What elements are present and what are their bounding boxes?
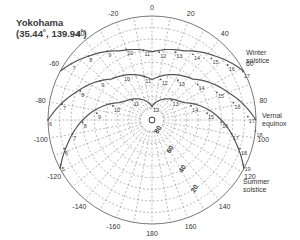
hour-label: 13 <box>176 53 182 59</box>
sun-path-curve <box>48 75 256 120</box>
hour-label: 19 <box>244 166 250 172</box>
hour-label: 18 <box>241 150 247 156</box>
hour-label: 17 <box>233 135 239 141</box>
azimuth-line <box>85 129 144 200</box>
hour-label: 9 <box>101 82 104 88</box>
hour-label: 6 <box>65 150 68 156</box>
azimuth-label: 40 <box>221 30 229 37</box>
altitude-label: 40 <box>177 163 187 173</box>
hour-label: 17 <box>244 73 250 79</box>
hour-label: 7 <box>73 65 76 71</box>
azimuth-line <box>158 30 204 110</box>
hour-label: 15 <box>218 93 224 99</box>
hour-label: 13 <box>179 81 185 87</box>
winter-solstice-label-line1: Winter <box>246 49 267 56</box>
azimuth-line <box>161 53 232 112</box>
azimuth-label: -60 <box>49 60 59 67</box>
azimuth-line <box>116 131 148 218</box>
hour-label: 10 <box>114 107 120 113</box>
hour-label: 12 <box>160 53 166 59</box>
summer-solstice-label-line2: solstice <box>243 186 266 193</box>
hour-label: 15 <box>212 59 218 65</box>
hour-label: 11 <box>145 78 151 84</box>
azimuth-line <box>62 126 142 172</box>
zenith-marker <box>149 117 155 123</box>
azimuth-label: -160 <box>106 223 120 230</box>
summer-solstice-label-line1: Summer <box>243 178 270 185</box>
sun-path-curves: 7891011121314151617678910111213141516171… <box>47 49 262 172</box>
altitude-azimuth-grid <box>48 16 256 224</box>
azimuth-label: -40 <box>74 30 84 37</box>
azimuth-label: 80 <box>259 97 267 104</box>
sun-path-diagram: 7891011121314151617678910111213141516171… <box>0 0 300 240</box>
hour-label: 12 <box>162 80 168 86</box>
hour-label: 8 <box>84 123 87 129</box>
hour-label: 14 <box>194 55 200 61</box>
azimuth-line <box>116 22 148 109</box>
sun-path-curve <box>60 99 244 169</box>
hour-label: 13 <box>173 101 179 107</box>
hour-label: 14 <box>192 107 198 113</box>
hour-label: 16 <box>229 66 235 72</box>
vernal-equinox-label-line1: Vernal <box>262 112 282 119</box>
azimuth-line <box>163 122 254 138</box>
azimuth-label: -100 <box>34 136 48 143</box>
azimuth-label: 180 <box>146 230 158 237</box>
hour-label: 5 <box>62 166 65 172</box>
azimuth-label: 0 <box>150 4 154 11</box>
altitude-label: 20 <box>189 183 199 193</box>
azimuth-label: -120 <box>47 173 61 180</box>
hour-label: 14 <box>199 85 205 91</box>
winter-solstice-label-line2: solstice <box>246 57 269 64</box>
hour-label: 7 <box>63 105 66 111</box>
azimuth-label: -20 <box>108 10 118 17</box>
azimuth-label: 160 <box>185 223 197 230</box>
hour-label: 10 <box>124 76 130 82</box>
hour-label: 9 <box>108 52 111 58</box>
azimuth-label: -140 <box>72 203 86 210</box>
hour-label: 11 <box>133 101 139 107</box>
hour-label: 16 <box>234 104 240 110</box>
hour-label: 11 <box>144 51 150 57</box>
vernal-equinox-label-line2: equinox <box>262 120 287 128</box>
hour-label: 7 <box>73 135 76 141</box>
hour-label: 17 <box>249 118 255 124</box>
azimuth-label: 140 <box>219 203 231 210</box>
hour-label: 6 <box>49 121 52 127</box>
azimuth-labels: 020406080100120140160180-160-140-120-100… <box>34 4 270 237</box>
hour-label: 10 <box>127 50 133 56</box>
hour-label: 9 <box>98 114 101 120</box>
hour-label: 8 <box>89 57 92 63</box>
azimuth-label: 20 <box>187 10 195 17</box>
hour-label: 8 <box>81 92 84 98</box>
hour-label: 16 <box>222 123 228 129</box>
azimuth-label: -80 <box>36 97 46 104</box>
azimuth-line <box>50 122 141 138</box>
hour-label: 15 <box>208 114 214 120</box>
hour-label: 12 <box>153 107 159 113</box>
azimuth-label: 100 <box>257 136 269 143</box>
